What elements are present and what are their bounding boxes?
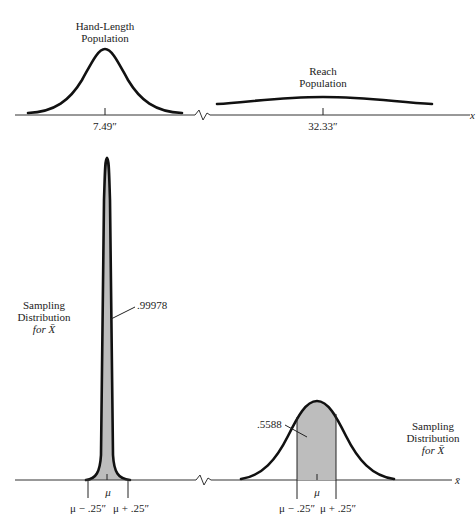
right-upper-label: μ + .25″ (320, 502, 356, 514)
bottom-panel: μ μ − .25″ μ + .25″ .99978 Sampling Dist… (15, 158, 460, 514)
left-title-3: for X̄ (33, 323, 57, 335)
left-upper-label: μ + .25″ (113, 502, 149, 514)
left-probability-label: .99978 (137, 299, 168, 311)
right-shaded-area (297, 401, 336, 480)
bottom-axis-label: x̄ (454, 474, 460, 486)
top-panel: x Hand-Length Population 7.49″ Reach Pop… (15, 20, 475, 132)
right-title-2: Distribution (406, 432, 460, 444)
reach-title-2: Population (299, 77, 347, 89)
right-title-3: for X̄ (422, 444, 446, 456)
hand-length-mean-label: 7.49″ (93, 120, 117, 132)
right-title-1: Sampling (412, 420, 455, 432)
left-probability-pointer (111, 307, 135, 319)
top-x-axis (15, 110, 470, 120)
reach-curve (217, 97, 432, 104)
hand-length-title-2: Population (81, 32, 129, 44)
right-lower-label: μ − .25″ (279, 502, 315, 514)
reach-title-1: Reach (309, 65, 337, 77)
left-shaded-area (88, 158, 128, 480)
reach-mean-label: 32.33″ (308, 120, 337, 132)
right-mu-label: μ (313, 486, 320, 498)
sampling-distribution-diagram: x Hand-Length Population 7.49″ Reach Pop… (0, 0, 476, 529)
left-title-2: Distribution (17, 311, 71, 323)
left-mu-label: μ (104, 486, 111, 498)
hand-length-curve (28, 49, 182, 113)
left-lower-label: μ − .25″ (70, 502, 106, 514)
top-axis-label: x (469, 109, 475, 121)
right-probability-label: .5588 (257, 418, 282, 430)
hand-length-title-1: Hand-Length (76, 20, 135, 32)
left-title-1: Sampling (23, 299, 66, 311)
